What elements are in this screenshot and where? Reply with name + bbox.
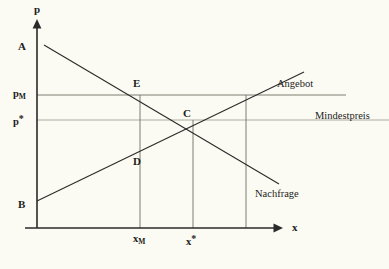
x-axis-label: x	[292, 222, 298, 233]
supply-curve	[37, 72, 304, 201]
supply-curve-label: Angebot	[277, 79, 313, 90]
diagram-canvas: p x A B E C D pM p* xM x* Angebot Nachfr…	[0, 0, 389, 269]
supply-demand-plot	[0, 0, 389, 269]
x-tick-xm-subscript: M	[138, 237, 145, 246]
y-tick-label-pm: pM	[13, 89, 26, 100]
demand-curve-label: Nachfrage	[255, 189, 299, 200]
x-axis-arrow-icon	[274, 224, 284, 233]
x-tick-xstar-asterisk: *	[191, 233, 196, 244]
y-axis-arrow-icon	[33, 19, 42, 29]
x-tick-label-xstar: x*	[186, 234, 196, 247]
point-label-d: D	[133, 156, 141, 167]
y-tick-pstar-asterisk: *	[19, 113, 24, 124]
x-tick-label-xm: xM	[133, 234, 145, 245]
y-tick-pm-subscript: M	[19, 92, 26, 101]
point-label-e: E	[133, 78, 140, 89]
point-label-c: C	[183, 108, 191, 119]
y-axis-label: p	[34, 4, 40, 15]
point-label-b: B	[18, 199, 25, 210]
y-tick-label-pstar: p*	[13, 114, 24, 127]
point-label-a: A	[18, 41, 26, 52]
mindestpreis-label: Mindestpreis	[315, 111, 370, 122]
demand-curve	[44, 45, 279, 184]
